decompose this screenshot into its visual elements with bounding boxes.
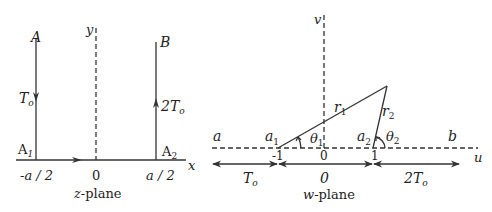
x-axis-label: x — [188, 158, 196, 173]
region-a-label: a — [213, 128, 221, 144]
r2-label: r2 — [382, 103, 394, 121]
tick-pos-half-a: a / 2 — [146, 168, 175, 183]
point-a1-label: a1 — [265, 128, 279, 147]
y-axis-label: y — [85, 22, 94, 37]
theta2-arc — [376, 137, 385, 148]
region-b-label: b — [448, 128, 457, 144]
segment-mid-value: 0 — [320, 170, 329, 186]
r1-label: r1 — [334, 99, 346, 117]
z-plane-caption: z-plane — [73, 186, 122, 201]
tick-origin: 0 — [92, 168, 100, 183]
u-axis-label: u — [474, 150, 482, 165]
theta1-label: θ1 — [310, 131, 324, 148]
w-plane-caption: w-plane — [303, 187, 355, 202]
left-boundary-value: To — [19, 90, 34, 108]
theta2-label: θ2 — [386, 129, 400, 146]
tick-minus-1: -1 — [272, 149, 284, 163]
point-a2-label: a2 — [357, 128, 371, 147]
conformal-mapping-diagram: A B y x To 2To A1 A2 -a / 2 0 a / 2 z-pl… — [0, 0, 492, 212]
segment-right-value: 2To — [403, 170, 428, 188]
v-axis-label: v — [314, 12, 322, 27]
tick-origin: 0 — [320, 149, 328, 163]
segment-left-value: To — [243, 170, 258, 188]
point-A1-label: A1 — [17, 142, 33, 159]
right-boundary-value: 2To — [160, 98, 185, 116]
tick-neg-half-a: -a / 2 — [20, 168, 53, 183]
point-B-label: B — [159, 34, 170, 50]
w-plane-diagram: v u r1 r2 θ1 θ2 a b a1 a2 -1 0 1 To 0 2T… — [212, 12, 482, 202]
point-A2-label: A2 — [161, 144, 177, 161]
point-A-label: A — [29, 29, 41, 45]
z-plane-diagram: A B y x To 2To A1 A2 -a / 2 0 a / 2 z-pl… — [16, 22, 196, 201]
tick-plus-1: 1 — [371, 149, 379, 163]
